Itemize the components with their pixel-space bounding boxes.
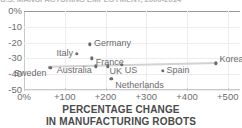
y-tick--10: -10 (8, 22, 22, 32)
y-tick-0: 0% (8, 6, 22, 16)
caption-line-1: PERCENTAGE CHANGE (0, 104, 242, 116)
gridline-x-200 (106, 11, 107, 90)
gridline-x-300 (146, 11, 147, 90)
point-label-germany: Germany (94, 39, 131, 48)
point-label-italy: Italy (56, 48, 73, 57)
x-tickmark-400 (187, 88, 188, 91)
x-axis-tick-labels: 0%+100+200+300+400+500 (24, 91, 240, 103)
scatter-chart-figure: U.S. MANUFACTURING EMPLOYMENT, 2000-2014… (0, 0, 242, 128)
plot-area: SwedenItalyGermanyFranceAustraliaUKNethe… (24, 11, 240, 90)
y-tick--30: -30 (8, 54, 22, 64)
point-label-netherlands: Netherlands (115, 80, 164, 89)
gridline-y-0 (24, 11, 240, 12)
point-label-spain: Spain (167, 66, 190, 75)
y-tick--20: -20 (8, 38, 22, 48)
x-tick-0: 0% (17, 92, 31, 102)
x-tick-100: +100 (54, 92, 75, 102)
gridline-y--20 (24, 43, 240, 44)
x-tickmark-200 (106, 88, 107, 91)
x-tick-400: +400 (176, 92, 197, 102)
chart-caption: PERCENTAGE CHANGE IN MANUFACTURING ROBOT… (0, 104, 242, 127)
caption-line-2: IN MANUFACTURING ROBOTS (0, 116, 242, 128)
gridline-y--10 (24, 27, 240, 28)
gridline-x-500 (228, 11, 229, 90)
point-label-australia: Australia (57, 66, 92, 75)
point-label-korea: Korea (220, 55, 242, 64)
x-tickmark-500 (228, 88, 229, 91)
x-tick-500: +500 (217, 92, 238, 102)
x-tickmark-0 (24, 88, 25, 91)
point-label-us: US (125, 65, 138, 74)
gridline-x-400 (187, 11, 188, 90)
x-tickmark-100 (65, 88, 66, 91)
x-tickmark-300 (146, 88, 147, 91)
chart-title-cutoff: U.S. MANUFACTURING EMPLOYMENT, 2000-2014 (0, 0, 242, 4)
point-label-uk: UK (110, 67, 123, 76)
y-axis-tick-labels: 0%-10-20-30-40-50 (0, 11, 22, 90)
gridline-y--30 (24, 58, 240, 59)
point-label-sweden: Sweden (14, 68, 47, 77)
x-tick-200: +200 (95, 92, 116, 102)
x-tick-300: +300 (136, 92, 157, 102)
